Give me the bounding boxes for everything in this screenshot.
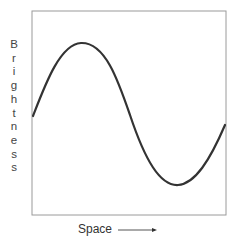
arrow-head-icon — [152, 228, 157, 232]
y-letter: B — [8, 38, 20, 52]
y-letter: g — [8, 79, 20, 93]
y-letter: n — [8, 120, 20, 134]
y-letter: h — [8, 93, 20, 107]
y-letter: t — [8, 107, 20, 121]
y-letter: s — [8, 161, 20, 175]
y-axis-label: B r i g h t n e s s — [8, 38, 20, 175]
x-axis-label: Space — [78, 222, 112, 236]
y-letter: i — [8, 65, 20, 79]
chart-canvas — [0, 0, 238, 245]
y-letter: e — [8, 134, 20, 148]
y-letter: r — [8, 52, 20, 66]
y-letter: s — [8, 148, 20, 162]
sine-curve — [33, 43, 225, 185]
